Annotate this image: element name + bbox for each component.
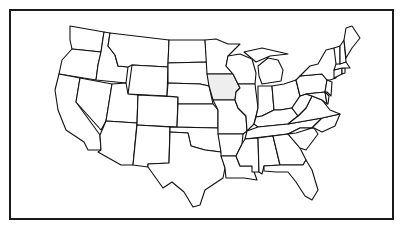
state-south-dakota[interactable] xyxy=(168,62,209,86)
state-colorado[interactable] xyxy=(137,95,178,127)
state-arizona[interactable] xyxy=(98,121,137,165)
state-new-mexico[interactable] xyxy=(133,125,170,167)
state-maine[interactable] xyxy=(344,26,360,58)
state-florida[interactable] xyxy=(264,160,318,200)
state-montana[interactable] xyxy=(108,33,169,67)
state-kansas[interactable] xyxy=(177,104,218,128)
us-map xyxy=(0,0,401,226)
state-north-dakota[interactable] xyxy=(168,40,207,63)
state-wyoming[interactable] xyxy=(128,65,168,96)
state-washington[interactable] xyxy=(70,26,104,52)
state-rhode-island[interactable] xyxy=(342,68,345,74)
